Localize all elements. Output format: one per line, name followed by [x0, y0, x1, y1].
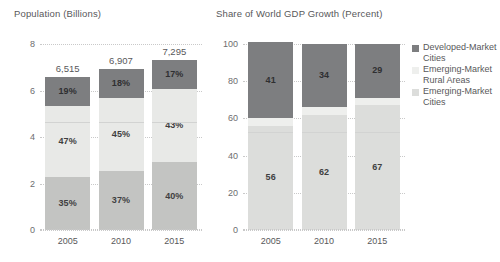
- x-axis-tick-label: 2015: [152, 236, 197, 246]
- bar-segment: [355, 98, 400, 105]
- segment-divider-line: [248, 132, 293, 133]
- legend-swatch-icon: [412, 67, 419, 74]
- figure-root: Population (Billions) Share of World GDP…: [0, 0, 500, 262]
- bar-segment: 40%: [152, 162, 197, 230]
- bar-segment-value-label: 41: [266, 76, 276, 85]
- bar-segment-value-label: 37%: [112, 196, 130, 205]
- bar-segment-value-label: 17%: [165, 70, 183, 79]
- y-axis-tick-label: 0: [16, 225, 35, 235]
- legend-item-label: Developed-Market Cities: [423, 42, 498, 63]
- bar-segment: 41: [248, 42, 293, 118]
- bar-segment: 29: [355, 44, 400, 98]
- y-axis-tick-label: 4: [16, 132, 35, 142]
- population-plot-area: 0246835%47%19%6,515200537%45%18%6,907201…: [40, 44, 202, 230]
- legend-item[interactable]: Emerging-Market Cities: [412, 86, 498, 107]
- bar-segment: [248, 118, 293, 125]
- y-axis-tick-label: 40: [214, 151, 238, 161]
- bar-segment-value-label: 45%: [112, 130, 130, 139]
- bar-segment: 43%: [152, 89, 197, 162]
- bar-total-label: 7,295: [162, 46, 186, 57]
- legend-swatch-icon: [412, 89, 419, 96]
- bar-stack: 37%45%18%6,907: [99, 44, 144, 230]
- bar-segment: 19%: [45, 77, 90, 106]
- gdp-share-chart-title: Share of World GDP Growth (Percent): [216, 8, 382, 19]
- y-axis-tick-label: 6: [16, 86, 35, 96]
- segment-divider-line: [152, 122, 197, 123]
- bar-segment-value-label: 62: [319, 168, 329, 177]
- x-axis-tick-label: 2005: [248, 236, 293, 246]
- bar-segment-value-label: 29: [372, 66, 382, 75]
- gridline: [40, 230, 202, 231]
- bar-segment-value-label: 35%: [58, 199, 76, 208]
- population-chart-title: Population (Billions): [14, 8, 101, 19]
- bar-segment-value-label: 18%: [112, 79, 130, 88]
- y-axis-tick-label: 60: [214, 113, 238, 123]
- bar-segment: 37%: [99, 171, 144, 230]
- bar-segment: 17%: [152, 60, 197, 89]
- y-axis-tick-label: 20: [214, 188, 238, 198]
- bar-stack: 56441: [248, 44, 293, 230]
- y-axis-tick-label: 80: [214, 76, 238, 86]
- bar-segment: 47%: [45, 106, 90, 177]
- bar-segment-value-label: 67: [372, 163, 382, 172]
- bar-segment-value-label: 34: [319, 71, 329, 80]
- y-axis-tick-label: 8: [16, 39, 35, 49]
- bar-segment-value-label: 19%: [58, 87, 76, 96]
- chart-legend: Developed-Market CitiesEmerging-Market R…: [412, 42, 498, 108]
- x-axis-tick-label: 2010: [99, 236, 144, 246]
- bar-segment-value-label: 40%: [165, 192, 183, 201]
- bar-total-label: 6,515: [56, 63, 80, 74]
- legend-item[interactable]: Emerging-Market Rural Areas: [412, 64, 498, 85]
- axis-baseline: [243, 229, 405, 230]
- y-axis-tick-label: 2: [16, 179, 35, 189]
- gridline: [243, 230, 405, 231]
- x-axis-tick-label: 2005: [45, 236, 90, 246]
- bar-stack: 35%47%19%6,515: [45, 44, 90, 230]
- bar-segment: 35%: [45, 177, 90, 230]
- y-axis-tick-label: 0: [214, 225, 238, 235]
- segment-divider-line: [355, 132, 400, 133]
- segment-divider-line: [45, 122, 90, 123]
- legend-item[interactable]: Developed-Market Cities: [412, 42, 498, 63]
- bar-segment-value-label: 47%: [58, 137, 76, 146]
- axis-baseline: [40, 229, 202, 230]
- segment-divider-line: [99, 122, 144, 123]
- bar-stack: 40%43%17%7,295: [152, 44, 197, 230]
- bar-segment: 18%: [99, 69, 144, 98]
- bar-segment: [302, 107, 347, 114]
- bar-segment: 67: [355, 105, 400, 230]
- legend-swatch-icon: [412, 45, 419, 52]
- legend-item-label: Emerging-Market Rural Areas: [423, 64, 498, 85]
- legend-item-label: Emerging-Market Cities: [423, 86, 498, 107]
- bar-segment-value-label: 56: [266, 173, 276, 182]
- y-axis-tick-label: 100: [214, 39, 238, 49]
- x-axis-tick-label: 2015: [355, 236, 400, 246]
- segment-divider-line: [302, 132, 347, 133]
- bar-segment: 34: [302, 44, 347, 107]
- bar-segment: 56: [248, 126, 293, 230]
- gdp-share-plot-area: 020406080100564412005624342010674292015: [243, 44, 405, 230]
- x-axis-tick-label: 2010: [302, 236, 347, 246]
- bar-total-label: 6,907: [109, 55, 133, 66]
- bar-segment: 45%: [99, 98, 144, 170]
- bar-stack: 67429: [355, 44, 400, 230]
- bar-stack: 62434: [302, 44, 347, 230]
